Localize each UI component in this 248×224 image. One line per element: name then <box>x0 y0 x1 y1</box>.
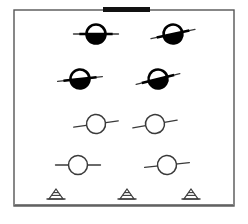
node-circle-outline <box>157 155 178 176</box>
node-circle-outline <box>85 113 106 134</box>
open-circle-node <box>72 111 119 136</box>
diagram-border <box>14 10 234 206</box>
support-triangle-outline <box>49 189 63 199</box>
open-circle-node <box>144 153 191 177</box>
node-circle-outline <box>69 156 88 175</box>
node-chord-line <box>63 77 96 80</box>
half-filled-circle-node <box>74 25 119 44</box>
top-black-bar <box>103 7 150 12</box>
triangle-support-marker <box>118 189 137 199</box>
support-triangle-outline <box>120 189 134 199</box>
triangle-support-marker <box>182 189 201 199</box>
diagram-canvas <box>0 0 248 224</box>
open-circle-node <box>131 111 179 138</box>
triangle-support-marker <box>47 189 66 199</box>
half-filled-circle-node <box>149 20 197 48</box>
half-filled-circle-node <box>57 67 104 91</box>
support-triangle-outline <box>184 189 198 199</box>
half-filled-circle-node <box>134 64 182 93</box>
node-circle-outline <box>144 113 166 135</box>
diagram-svg <box>0 0 248 224</box>
open-circle-node <box>56 156 101 175</box>
